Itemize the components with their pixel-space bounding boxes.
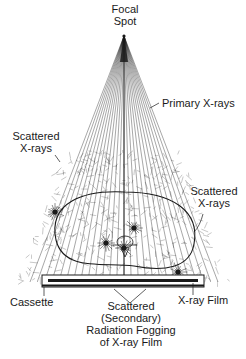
scatter-stroke (216, 267, 219, 274)
scatter-stroke (120, 265, 121, 268)
scatter-stroke (102, 234, 105, 236)
scatter-stroke (195, 211, 200, 213)
scattered-right-line2: X-rays (186, 197, 242, 209)
scatter-stroke (132, 236, 138, 237)
scatter-stroke (116, 164, 118, 166)
scatter-stroke (172, 170, 173, 175)
scatter-stroke (72, 233, 76, 236)
scatter-stroke (178, 196, 181, 199)
scatter-stroke (161, 226, 167, 228)
scattered-left-line2: X-rays (8, 142, 64, 154)
scatter-stroke (155, 160, 157, 163)
scatter-stroke (101, 202, 104, 206)
scatter-point (52, 209, 57, 214)
scatter-stroke (105, 161, 111, 164)
scatter-stroke (69, 152, 70, 159)
scatter-stroke (144, 207, 151, 208)
scatter-stroke (48, 266, 52, 267)
scatter-stroke (127, 200, 128, 204)
scatter-stroke (45, 246, 50, 251)
scatter-stroke (59, 237, 61, 240)
xray-film-label: X-ray Film (178, 294, 228, 306)
scatter-stroke (179, 175, 182, 179)
scatter-stroke (114, 227, 122, 229)
scattered-left-leader (55, 155, 60, 162)
scatter-stroke (33, 238, 38, 242)
diagram-canvas: Focal Spot Primary X-rays Scattered X-ra… (0, 0, 246, 359)
xray-film (48, 279, 198, 282)
scatter-stroke (163, 270, 166, 273)
scatter-stroke (176, 163, 181, 165)
scatter-stroke (83, 214, 85, 219)
scatter-stroke (101, 190, 107, 192)
scatter-stroke (134, 169, 135, 175)
scatter-stroke (44, 214, 50, 218)
scatter-stroke (130, 203, 133, 210)
scatter-stroke (160, 229, 161, 232)
scatter-stroke (162, 172, 163, 178)
scatter-stroke (137, 171, 140, 172)
scatter-stroke (51, 172, 58, 176)
primary-xrays-text: Primary X-rays (162, 97, 235, 109)
scattered-xrays-left-label: Scattered X-rays (8, 130, 64, 154)
scatter-stroke (122, 183, 126, 184)
scatter-stroke (159, 260, 162, 266)
primary-xrays-label: Primary X-rays (162, 97, 235, 109)
fogging-line3: Radiation Fogging (78, 324, 184, 336)
scatter-stroke (103, 186, 105, 189)
scatter-stroke (160, 205, 161, 209)
scatter-stroke (84, 234, 85, 239)
scatter-stroke (56, 173, 64, 174)
scatter-point (175, 269, 180, 274)
scatter-stroke (92, 267, 95, 270)
scatter-stroke (116, 205, 117, 208)
scatter-stroke (68, 184, 75, 185)
scatter-stroke (111, 220, 118, 223)
scatter-stroke (151, 162, 154, 165)
scatter-stroke (80, 232, 81, 236)
scatter-stroke (205, 275, 208, 282)
scatter-stroke (178, 150, 180, 154)
scatter-stroke (172, 242, 176, 244)
scatter-stroke (66, 226, 71, 232)
scatter-stroke (55, 187, 59, 191)
scatter-stroke (204, 259, 209, 261)
scatter-stroke (30, 262, 38, 263)
scatter-stroke (98, 175, 104, 176)
scatter-stroke (88, 246, 90, 250)
scatter-stroke (204, 222, 207, 229)
scatter-stroke (81, 203, 82, 206)
scatter-stroke (144, 260, 150, 261)
scatter-stroke (114, 212, 115, 215)
primary-ray (30, 36, 124, 282)
fogging-line4: of X-ray Film (78, 336, 184, 348)
primary-ray (124, 36, 218, 282)
scatter-stroke (105, 153, 110, 155)
scatter-stroke (88, 158, 91, 160)
scatter-stroke (143, 236, 146, 238)
focal-spot-line1: Focal (104, 3, 146, 15)
scatter-stroke (160, 183, 163, 184)
scatter-stroke (90, 215, 96, 216)
scatter-stroke (60, 260, 62, 264)
scatter-stroke (26, 271, 28, 275)
scatter-stroke (59, 216, 63, 217)
scatter-stroke (70, 159, 72, 164)
scatter-stroke (66, 225, 70, 227)
scatter-stroke (129, 256, 133, 257)
scatter-stroke (98, 181, 101, 182)
scatter-stroke (89, 165, 93, 167)
scatter-stroke (154, 185, 157, 186)
scatter-stroke (86, 198, 89, 201)
scatter-stroke (28, 272, 30, 276)
scatter-stroke (144, 196, 149, 197)
scatter-stroke (162, 176, 168, 181)
scatter-stroke (68, 162, 71, 164)
scatter-stroke (227, 279, 229, 281)
scatter-stroke (79, 153, 83, 158)
scatter-stroke (26, 255, 30, 258)
scatter-stroke (103, 179, 107, 182)
scatter-stroke (78, 194, 83, 196)
scatter-stroke (102, 230, 107, 234)
scatter-stroke (175, 213, 177, 220)
